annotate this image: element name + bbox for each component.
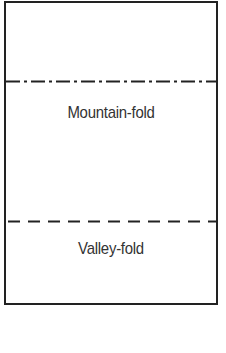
valley-fold-line	[6, 220, 216, 223]
mountain-fold-line	[6, 80, 216, 83]
paper-sheet: Mountain-fold Valley-fold	[4, 1, 218, 305]
dashed-line-icon	[6, 220, 216, 223]
valley-fold-label: Valley-fold	[19, 239, 204, 259]
diagram-canvas: Mountain-fold Valley-fold	[0, 0, 226, 353]
mountain-fold-label: Mountain-fold	[19, 103, 204, 123]
dash-dot-line-icon	[6, 80, 216, 83]
